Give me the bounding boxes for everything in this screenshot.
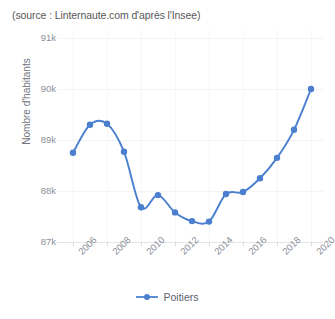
series-layer — [0, 0, 335, 319]
data-point[interactable] — [121, 149, 127, 155]
legend-marker-poitiers — [136, 296, 158, 298]
data-point[interactable] — [308, 86, 314, 92]
x-axis-tick-mark — [209, 242, 210, 246]
data-point[interactable] — [138, 204, 144, 210]
data-point[interactable] — [189, 218, 195, 224]
data-point[interactable] — [206, 218, 212, 224]
data-point[interactable] — [240, 189, 246, 195]
legend-label-poitiers: Poitiers — [163, 291, 198, 303]
data-point[interactable] — [70, 150, 76, 156]
x-axis-tick-mark — [73, 242, 74, 246]
chart-figure: (source : Linternaute.com d'après l'Inse… — [0, 0, 335, 319]
data-point[interactable] — [223, 191, 229, 197]
data-point[interactable] — [257, 175, 263, 181]
x-axis-tick-mark — [243, 242, 244, 246]
data-point[interactable] — [274, 155, 280, 161]
data-point[interactable] — [104, 120, 110, 126]
x-axis-tick-mark — [277, 242, 278, 246]
data-point[interactable] — [87, 122, 93, 128]
data-point[interactable] — [291, 127, 297, 133]
x-axis-tick-mark — [311, 242, 312, 246]
x-axis-tick-mark — [175, 242, 176, 246]
data-point[interactable] — [155, 192, 161, 198]
chart-legend[interactable]: Poitiers — [0, 291, 335, 303]
data-point[interactable] — [172, 209, 178, 215]
series-poitiers — [70, 86, 314, 225]
x-axis-tick-mark — [141, 242, 142, 246]
x-axis-tick-mark — [107, 242, 108, 246]
